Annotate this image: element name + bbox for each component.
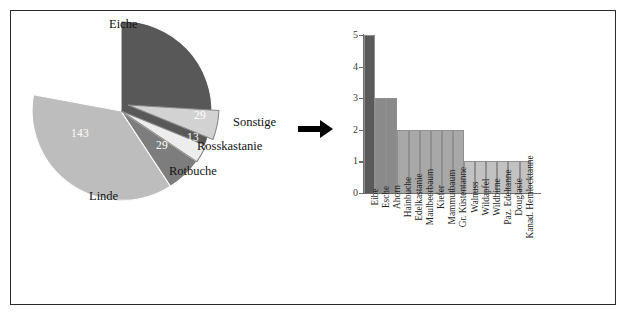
x-label-cell: Paz. Edeltanne [497,196,508,301]
x-label-cell: Hainbuche [397,196,408,301]
x-label-cell: Kiefer [431,196,442,301]
x-label-cell: Eibe [364,196,375,301]
x-label-cell: Kanad. Hemlocktanne [520,196,531,301]
y-tick-mark [359,193,363,194]
x-label-cell: Wildapfel [475,196,486,301]
x-label-cell: Wildbirne [486,196,497,301]
pie-label-linde: Linde [89,189,118,204]
x-label-cell: Walnuss [464,196,475,301]
x-label-cell: Maulbeerbaum [420,196,431,301]
bar[interactable] [364,35,375,193]
x-label-cell: Edelkastanie [409,196,420,301]
x-axis-label: Kanad. Hemlocktanne [525,155,536,238]
pie-value-sonstige: 29 [194,109,206,121]
y-tick-label: 2 [345,125,358,135]
pie-label-rosskastanie: Rosskastanie [197,139,262,154]
pie-chart-panel: 221 143 29 13 29 Eiche Linde Rotbuche Ro… [11,11,311,306]
pie-label-eiche: Eiche [109,17,137,32]
right-arrow-icon [298,116,334,142]
x-label-cell: Mammutbaum [442,196,453,301]
bar-chart-panel: 012345 EibeEscheAhornHainbucheEdelkastan… [331,11,617,306]
figure-frame: 221 143 29 13 29 Eiche Linde Rotbuche Ro… [10,10,616,305]
pie-value-eiche: 221 [90,59,108,71]
pie-value-rotbuche: 29 [156,139,168,151]
x-axis-labels: EibeEscheAhornHainbucheEdelkastanieMaulb… [364,196,530,301]
y-tick-label: 0 [345,188,358,198]
y-tick-mark [359,130,363,131]
y-tick-label: 5 [345,30,358,40]
x-label-cell: Esche [375,196,386,301]
y-tick-label: 4 [345,62,358,72]
pie-label-sonstige: Sonstige [233,115,276,130]
x-label-cell: Douglasie [508,196,519,301]
y-tick-mark [359,67,363,68]
x-label-cell: Gr. Küstentanne [453,196,464,301]
y-tick-mark [359,35,363,36]
y-tick-label: 3 [345,93,358,103]
pie-value-linde: 143 [71,127,89,139]
bar[interactable] [386,98,397,193]
bar[interactable] [375,98,386,193]
pie-label-rotbuche: Rotbuche [169,164,217,179]
y-tick-label: 1 [345,156,358,166]
y-tick-mark [359,98,363,99]
y-tick-mark [359,161,363,162]
x-label-cell: Ahorn [386,196,397,301]
